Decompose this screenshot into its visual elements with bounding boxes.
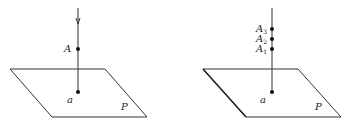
label-foot-a-right: a xyxy=(260,94,266,105)
label-foot-a-left: a xyxy=(67,94,73,105)
left-figure: A a P xyxy=(10,8,147,117)
plane-edge-left-thick xyxy=(203,69,246,117)
point-A2 xyxy=(270,37,274,41)
point-a-upper xyxy=(76,47,80,51)
point-A1 xyxy=(270,47,274,51)
label-plane-P-right: P xyxy=(314,101,322,112)
foot-point-a-left xyxy=(76,90,80,94)
foot-point-a-right xyxy=(270,90,274,94)
point-A3 xyxy=(270,27,274,31)
right-figure: A3 A2 A1 a P xyxy=(203,8,341,117)
label-point-A: A xyxy=(63,43,71,54)
diagram-canvas: A a P A3 A2 A1 a P xyxy=(0,0,350,129)
label-plane-P-left: P xyxy=(120,101,128,112)
